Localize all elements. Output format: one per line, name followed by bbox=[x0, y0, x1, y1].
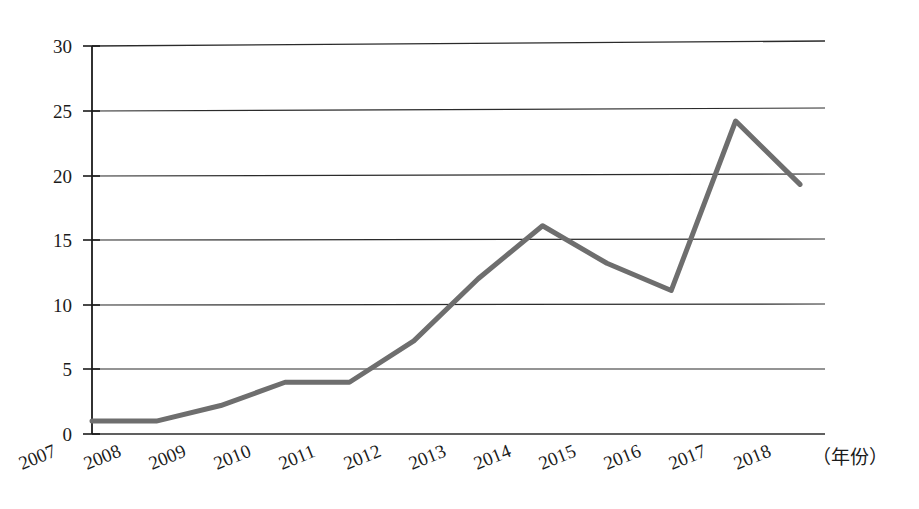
x-tick-label-2007: 2007 bbox=[16, 440, 59, 474]
x-tick-label-2012: 2012 bbox=[341, 440, 384, 474]
x-tick-label-2017: 2017 bbox=[666, 440, 709, 474]
chart-canvas: 30 25 20 15 10 5 0 2007 2008 2009 2010 2… bbox=[0, 0, 919, 509]
gridline-25 bbox=[92, 108, 825, 111]
x-tick-label-2009: 2009 bbox=[146, 440, 189, 474]
gridline-30 bbox=[92, 41, 825, 46]
x-tick-label-2010: 2010 bbox=[211, 440, 254, 474]
y-tick-label-10: 10 bbox=[53, 295, 72, 316]
x-tick-label-2016: 2016 bbox=[601, 440, 644, 474]
y-axis-tick-labels: 30 25 20 15 10 5 0 bbox=[53, 36, 72, 445]
x-tick-label-2013: 2013 bbox=[406, 440, 449, 474]
gridline-15 bbox=[92, 239, 825, 240]
x-tick-label-2015: 2015 bbox=[536, 440, 579, 474]
data-series-line bbox=[92, 121, 800, 421]
x-tick-label-2014: 2014 bbox=[471, 440, 515, 474]
line-chart: 30 25 20 15 10 5 0 2007 2008 2009 2010 2… bbox=[0, 0, 919, 509]
x-axis-unit-label: （年份） bbox=[812, 447, 888, 468]
gridlines bbox=[92, 41, 825, 434]
x-tick-label-2018: 2018 bbox=[731, 440, 774, 474]
y-tick-label-0: 0 bbox=[63, 424, 73, 445]
x-tick-label-2011: 2011 bbox=[276, 440, 318, 473]
y-tick-label-15: 15 bbox=[53, 230, 72, 251]
y-tick-label-25: 25 bbox=[53, 101, 72, 122]
y-tick-label-5: 5 bbox=[63, 359, 73, 380]
x-axis-tick-labels: 2007 2008 2009 2010 2011 2012 2013 2014 … bbox=[16, 440, 774, 474]
y-tick-label-30: 30 bbox=[53, 36, 72, 57]
y-tick-label-20: 20 bbox=[53, 166, 72, 187]
gridline-10 bbox=[92, 304, 825, 305]
x-tick-label-2008: 2008 bbox=[81, 440, 124, 474]
